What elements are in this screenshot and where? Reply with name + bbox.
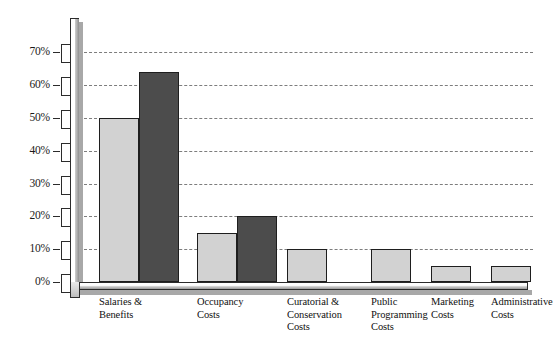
bar-light-0[interactable] [99, 118, 139, 282]
category-label-line: Curatorial & [287, 296, 342, 309]
y-tick-dash-50% [53, 118, 60, 119]
y-tick-dash-70% [53, 52, 60, 53]
category-label-4: MarketingCosts [431, 296, 474, 321]
bar-light-2[interactable] [287, 249, 327, 282]
bar-dark-0[interactable] [139, 72, 179, 282]
x-axis-slab [70, 282, 528, 290]
category-label-0: Salaries &Benefits [99, 296, 142, 321]
category-label-line: Costs [371, 321, 428, 334]
y-tick-dash-0% [53, 282, 60, 283]
y-axis-slab [70, 18, 79, 285]
y-axis-label-70%: 70% [6, 45, 50, 57]
category-label-line: Costs [287, 321, 342, 334]
category-label-line: Occupancy [197, 296, 243, 309]
category-label-line: Public [371, 296, 428, 309]
y-tick-dash-60% [53, 85, 60, 86]
x-axis-origin-cap [70, 282, 80, 298]
category-label-1: OccupancyCosts [197, 296, 243, 321]
bar-light-1[interactable] [197, 233, 237, 282]
category-label-line: Costs [197, 309, 243, 322]
category-label-line: Salaries & [99, 296, 142, 309]
category-label-line: Costs [491, 309, 553, 322]
y-axis-label-40%: 40% [6, 144, 50, 156]
y-axis-label-30%: 30% [6, 177, 50, 189]
category-label-line: Conservation [287, 309, 342, 322]
category-label-line: Benefits [99, 309, 142, 322]
y-axis-label-20%: 20% [6, 209, 50, 221]
y-tick-dash-30% [53, 184, 60, 185]
category-label-3: PublicProgrammingCosts [371, 296, 428, 334]
y-tick-dash-40% [53, 151, 60, 152]
category-label-line: Costs [431, 309, 474, 322]
bar-light-3[interactable] [371, 249, 411, 282]
y-axis-label-10%: 10% [6, 242, 50, 254]
gridline-70% [79, 52, 533, 53]
x-axis-shadow [74, 290, 532, 295]
category-label-line: Marketing [431, 296, 474, 309]
y-axis-label-0%: 0% [6, 275, 50, 287]
bar-light-4[interactable] [431, 266, 471, 282]
category-label-line: Administrative [491, 296, 553, 309]
y-tick-dash-10% [53, 249, 60, 250]
bar-dark-1[interactable] [237, 216, 277, 282]
category-label-2: Curatorial &ConservationCosts [287, 296, 342, 334]
y-tick-dash-20% [53, 216, 60, 217]
y-axis-label-60%: 60% [6, 78, 50, 90]
bar-light-5[interactable] [491, 266, 531, 282]
bar-chart: 0%10%20%30%40%50%60%70% Salaries &Benefi… [0, 0, 559, 349]
category-label-5: AdministrativeCosts [491, 296, 553, 321]
category-label-line: Programming [371, 309, 428, 322]
y-axis-label-50%: 50% [6, 111, 50, 123]
